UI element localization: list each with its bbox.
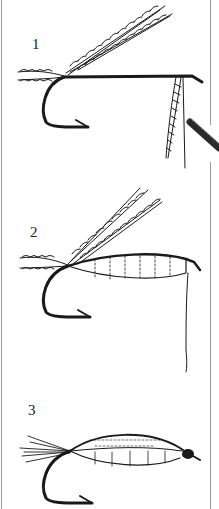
- step-2-drawing: [20, 188, 200, 372]
- fly-tying-illustration: [0, 0, 219, 509]
- step-3-drawing: [20, 435, 200, 503]
- step-1-drawing: [18, 6, 219, 168]
